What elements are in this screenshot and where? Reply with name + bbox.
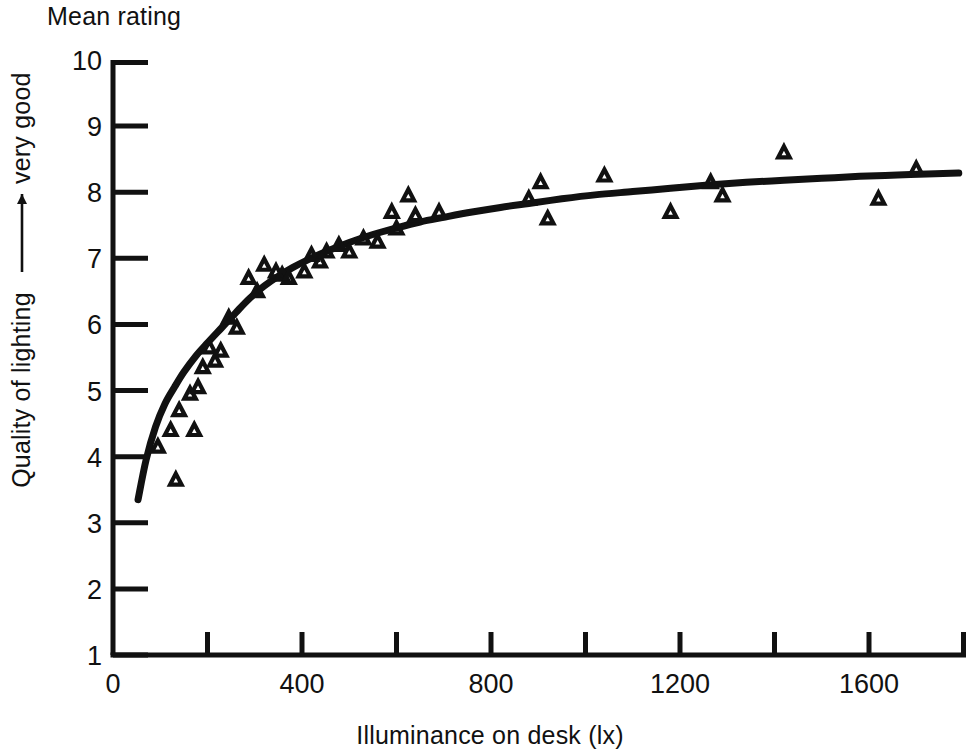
x-axis-tick-label: 400 [279, 669, 324, 699]
y-axis-tick-label: 6 [87, 310, 102, 340]
y-axis-tick-label: 4 [87, 443, 102, 473]
chart-svg: Mean rating 12345678910 040080012001600 … [0, 0, 980, 751]
x-axis-tick-label: 800 [468, 669, 513, 699]
y-axis-tick-label: 1 [87, 641, 102, 671]
y-axis-tick-label: 10 [72, 46, 102, 76]
y-axis-caption-right: very good [7, 72, 35, 184]
y-axis-tick-label: 5 [87, 377, 102, 407]
y-axis-tick-label: 3 [87, 509, 102, 539]
chart-top-label: Mean rating [47, 2, 181, 30]
x-axis-tick-label: 1200 [650, 669, 710, 699]
y-axis-caption-left: Quality of lighting [7, 292, 35, 488]
y-axis-tick-label: 7 [87, 244, 102, 274]
figure-container: Mean rating 12345678910 040080012001600 … [0, 0, 980, 751]
y-axis-tick-label: 2 [87, 575, 102, 605]
x-axis-tick-label: 1600 [839, 669, 899, 699]
y-axis-tick-label: 9 [87, 112, 102, 142]
x-axis-tick-label: 0 [105, 669, 120, 699]
x-axis-caption: Illuminance on desk (lx) [356, 721, 623, 749]
y-axis-tick-label: 8 [87, 178, 102, 208]
